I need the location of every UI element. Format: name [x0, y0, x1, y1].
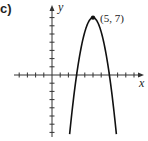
x-axis-label: x: [139, 76, 144, 91]
part-label: c): [0, 1, 12, 16]
y-axis-arrow-icon: [50, 5, 55, 11]
y-axis-label: y: [58, 0, 63, 15]
parabola-graph: [0, 0, 148, 141]
vertex-label: (5, 7): [100, 12, 124, 24]
vertex-point: [91, 15, 95, 19]
figure: c) y x (5, 7): [0, 0, 148, 141]
